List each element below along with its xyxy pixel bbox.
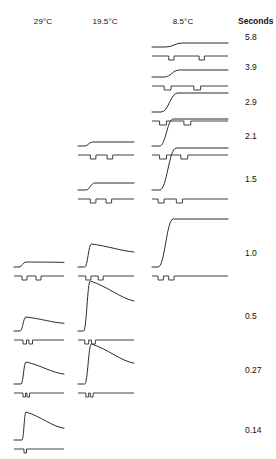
- column-header-c29: 29°C: [34, 17, 52, 26]
- stimulus-marker-trace: [78, 199, 134, 203]
- stimulus-marker-trace: [14, 393, 64, 397]
- trace-cell: [152, 213, 228, 286]
- trace-cell: [14, 255, 64, 286]
- stimulus-marker-trace: [152, 276, 228, 280]
- response-trace: [14, 362, 64, 384]
- trace-cell: [152, 142, 228, 209]
- row-label-r10: 1.0: [245, 248, 257, 258]
- response-trace: [78, 281, 134, 331]
- row-label-r39: 3.9: [245, 62, 257, 72]
- row-label-r014: 0.14: [245, 425, 262, 435]
- column-header-c85: 8.5°C: [173, 17, 194, 26]
- trace-cell: [14, 311, 64, 350]
- trace-cell: [78, 177, 134, 209]
- stimulus-marker-trace: [152, 199, 228, 203]
- stimulus-marker-trace: [14, 340, 64, 344]
- trace-cell: [14, 406, 64, 459]
- response-trace: [14, 262, 64, 267]
- stimulus-marker-trace: [78, 393, 134, 397]
- response-trace: [78, 344, 134, 384]
- trace-cell: [152, 35, 228, 66]
- response-trace: [78, 244, 134, 267]
- row-label-r29: 2.9: [245, 97, 257, 107]
- response-trace: [78, 142, 134, 146]
- response-trace: [14, 412, 64, 440]
- row-label-r05: 0.5: [245, 311, 257, 321]
- stimulus-marker-trace: [78, 155, 134, 159]
- response-trace: [152, 70, 228, 77]
- row-label-r21: 2.1: [245, 131, 257, 141]
- row-label-r15: 1.5: [245, 174, 257, 184]
- row-label-r027: 0.27: [245, 365, 262, 375]
- stimulus-marker-trace: [14, 449, 64, 453]
- trace-cell: [78, 134, 134, 165]
- response-trace: [152, 93, 228, 112]
- stimulus-marker-trace: [14, 276, 64, 280]
- column-header-c195: 19.5°C: [92, 17, 117, 26]
- response-trace: [14, 317, 64, 331]
- row-label-r58: 5.8: [245, 32, 257, 42]
- trace-cell: [14, 356, 64, 403]
- trace-cell: [78, 338, 134, 403]
- response-trace: [78, 183, 134, 190]
- trace-matrix-figure: 29°C19.5°C8.5°CSeconds5.83.92.92.11.51.0…: [0, 0, 276, 459]
- response-trace: [152, 43, 228, 47]
- response-trace: [152, 148, 228, 190]
- response-trace: [152, 219, 228, 267]
- seconds-axis-title: Seconds: [238, 16, 273, 26]
- stimulus-marker-trace: [152, 56, 228, 60]
